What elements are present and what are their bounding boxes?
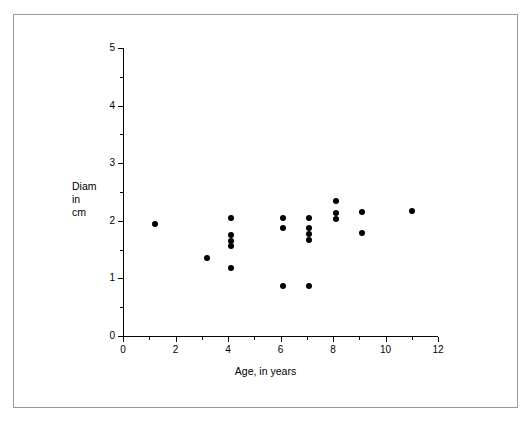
y-axis-title-line-2: in [72,193,97,206]
y-major-tick [118,336,123,337]
y-tick-label: 0 [91,331,115,341]
x-tick-label: 0 [108,345,138,355]
y-major-tick [118,48,123,49]
y-major-tick [118,106,123,107]
y-tick-label: 1 [91,273,115,283]
x-major-tick [438,337,439,342]
x-tick-label: 8 [318,345,348,355]
y-minor-tick [120,77,123,78]
x-minor-tick [254,337,255,340]
x-tick-label: 2 [161,345,191,355]
y-major-tick [118,221,123,222]
x-minor-tick [307,337,308,340]
data-point [359,209,365,215]
y-major-tick [118,278,123,279]
data-point [228,215,234,221]
data-point [359,230,365,236]
x-major-tick [281,337,282,342]
figure-container: 024681012012345 Diam in cm Age, in years [0,0,531,422]
y-tick-label: 5 [91,43,115,53]
data-point [306,215,312,221]
y-axis-title: Diam in cm [72,180,97,219]
data-point [409,208,415,214]
x-major-tick [228,337,229,342]
x-tick-label: 4 [213,345,243,355]
data-point [204,255,210,261]
y-tick-label: 3 [91,158,115,168]
x-major-tick [333,337,334,342]
data-point [280,225,286,231]
data-point [228,243,234,249]
x-tick-label: 12 [423,345,453,355]
data-point [280,283,286,289]
data-point [306,283,312,289]
x-axis-title: Age, in years [0,366,531,377]
x-major-tick [386,337,387,342]
data-point [152,221,158,227]
y-axis-title-line-1: Diam [72,180,97,193]
scatter-plot: 024681012012345 Diam in cm Age, in years [0,0,531,422]
data-point [333,216,339,222]
data-point [306,225,312,231]
data-point [306,237,312,243]
data-point [333,198,339,204]
y-axis-title-line-3: cm [72,206,97,219]
x-tick-label: 10 [371,345,401,355]
y-minor-tick [120,192,123,193]
x-major-tick [176,337,177,342]
x-tick-label: 6 [266,345,296,355]
x-minor-tick [202,337,203,340]
y-major-tick [118,163,123,164]
y-tick-label: 4 [91,101,115,111]
y-minor-tick [120,134,123,135]
y-axis-line [123,48,124,336]
x-minor-tick [412,337,413,340]
data-point [280,215,286,221]
y-minor-tick [120,250,123,251]
x-major-tick [123,337,124,342]
x-minor-tick [359,337,360,340]
y-minor-tick [120,307,123,308]
data-point [228,265,234,271]
x-minor-tick [149,337,150,340]
